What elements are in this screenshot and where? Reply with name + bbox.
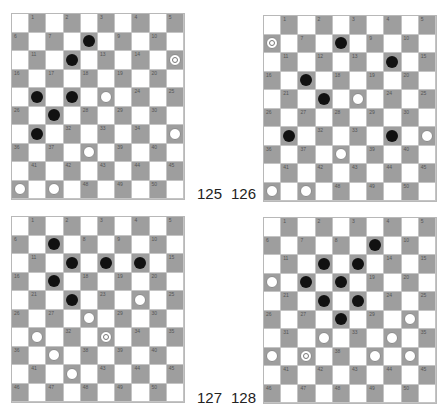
square-23: [350, 90, 367, 109]
square-17: [298, 72, 315, 91]
light-square: [29, 384, 46, 403]
light-square: [115, 14, 132, 33]
square-4: 4: [132, 14, 149, 33]
black-piece-icon: [300, 74, 312, 86]
square-number: 35: [169, 329, 175, 334]
square-number: 11: [31, 52, 36, 57]
square-number: 49: [369, 386, 375, 391]
light-square: [115, 365, 132, 384]
square-number: 13: [100, 52, 106, 57]
light-square: [46, 365, 63, 384]
light-square: [29, 33, 46, 52]
light-square: [150, 365, 167, 384]
square-11: 11: [281, 53, 298, 72]
black-piece-icon: [318, 258, 330, 270]
square-number: 29: [117, 311, 123, 316]
light-square: [384, 311, 401, 330]
white-piece-icon: [335, 148, 347, 160]
light-square: [367, 164, 384, 183]
square-29: 29: [115, 107, 132, 126]
light-square: [367, 53, 384, 72]
square-32: [316, 329, 333, 348]
square-number: 44: [134, 366, 140, 371]
square-4: 4: [132, 217, 149, 236]
square-37: 37: [298, 146, 315, 165]
light-square: [81, 254, 98, 273]
light-square: [64, 236, 81, 255]
light-square: [81, 217, 98, 236]
square-number: 39: [117, 348, 123, 353]
square-number: 11: [283, 256, 288, 261]
light-square: [46, 125, 63, 144]
square-27: 27: [46, 310, 63, 329]
square-number: 5: [421, 219, 424, 224]
light-square: [167, 144, 184, 163]
square-number: 4: [386, 17, 389, 22]
square-33: 33: [98, 125, 115, 144]
square-5: 5: [167, 217, 184, 236]
square-number: 26: [266, 312, 272, 317]
square-number: 48: [335, 184, 341, 189]
square-number: 25: [421, 91, 427, 96]
white-piece-icon: [266, 185, 278, 197]
square-number: 43: [100, 163, 106, 168]
light-square: [333, 292, 350, 311]
square-41: 41: [281, 366, 298, 385]
square-46: 46: [264, 385, 281, 404]
square-number: 33: [352, 128, 358, 133]
square-36: 36: [12, 144, 29, 163]
square-37: 37: [46, 144, 63, 163]
square-29: 29: [115, 310, 132, 329]
light-square: [12, 254, 29, 273]
light-square: [281, 348, 298, 367]
square-38: 38: [333, 348, 350, 367]
square-number: 7: [300, 36, 303, 41]
square-number: 21: [283, 293, 289, 298]
light-square: [333, 127, 350, 146]
square-22: [316, 90, 333, 109]
light-square: [264, 366, 281, 385]
square-13: [98, 254, 115, 273]
square-3: 3: [350, 218, 367, 237]
light-square: [298, 366, 315, 385]
square-number: 8: [335, 238, 338, 243]
square-number: 48: [83, 385, 89, 390]
square-28: [81, 310, 98, 329]
square-number: 36: [14, 348, 20, 353]
square-14: [132, 254, 149, 273]
light-square: [419, 183, 436, 202]
light-square: [46, 162, 63, 181]
square-49: 49: [115, 181, 132, 200]
square-number: 34: [134, 126, 140, 131]
square-12: [64, 51, 81, 70]
square-25: 25: [419, 90, 436, 109]
square-number: 1: [31, 15, 34, 20]
light-square: [115, 125, 132, 144]
square-49: 49: [367, 183, 384, 202]
light-square: [12, 88, 29, 107]
diagram-number-125: 125: [197, 185, 222, 202]
light-square: [115, 88, 132, 107]
light-square: [384, 146, 401, 165]
square-46: [264, 183, 281, 202]
square-number: 49: [117, 385, 123, 390]
square-23: [350, 292, 367, 311]
square-number: 21: [31, 292, 37, 297]
light-square: [98, 236, 115, 255]
light-square: [98, 310, 115, 329]
square-36: 36: [12, 347, 29, 366]
square-38: 38: [81, 347, 98, 366]
square-number: 41: [31, 366, 37, 371]
square-number: 45: [421, 165, 427, 170]
square-number: 17: [48, 71, 54, 76]
square-number: 48: [83, 182, 89, 187]
square-38: [81, 144, 98, 163]
square-20: 20: [150, 70, 167, 89]
light-square: [264, 16, 281, 35]
square-number: 25: [169, 292, 175, 297]
square-30: 30: [150, 310, 167, 329]
square-number: 33: [352, 330, 358, 335]
light-square: [367, 366, 384, 385]
light-square: [64, 310, 81, 329]
square-9: 9: [367, 35, 384, 54]
